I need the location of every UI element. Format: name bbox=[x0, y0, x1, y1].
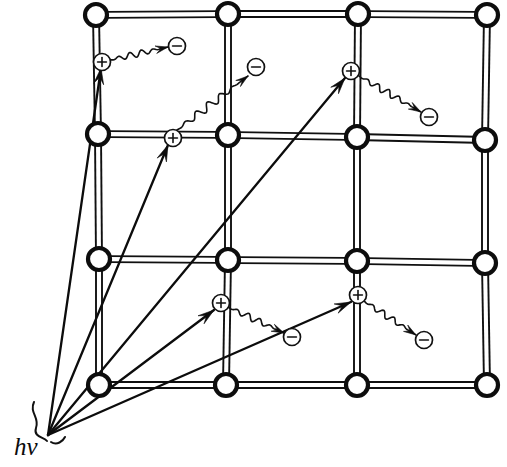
lattice-node bbox=[87, 123, 109, 145]
lattice-bond-line bbox=[108, 137, 218, 138]
lattice-node bbox=[85, 4, 107, 26]
lattice-bond-line bbox=[238, 257, 347, 258]
lattice-node bbox=[476, 374, 498, 396]
electron-charge-4 bbox=[284, 329, 301, 346]
figure-root: hν bbox=[0, 0, 507, 467]
lattice-node bbox=[217, 249, 239, 271]
lattice-bond-line bbox=[106, 11, 218, 12]
hole-charge-5 bbox=[350, 287, 367, 304]
electron-charge-5 bbox=[416, 332, 433, 349]
lattice-bond-line bbox=[368, 17, 477, 18]
lattice-node bbox=[215, 374, 237, 396]
hole-charge-2 bbox=[165, 130, 182, 147]
lattice-node bbox=[474, 252, 496, 274]
lattice-node bbox=[346, 374, 368, 396]
lattice-bond-line bbox=[95, 144, 96, 249]
electron-charge-3 bbox=[421, 109, 438, 126]
lattice-photon-diagram: hν bbox=[0, 0, 507, 467]
hole-charge-4 bbox=[213, 295, 230, 312]
hole-charge-3 bbox=[343, 63, 360, 80]
lattice-bond-line bbox=[109, 256, 218, 257]
lattice-node bbox=[88, 248, 110, 270]
lattice-node bbox=[346, 126, 368, 148]
electron-charge-2 bbox=[248, 59, 265, 76]
lattice-node bbox=[474, 129, 496, 151]
lattice-bond-line bbox=[360, 24, 361, 127]
photon-energy-label: hν bbox=[14, 433, 39, 460]
lattice-bond-line bbox=[368, 11, 477, 12]
lattice-bond-line bbox=[101, 144, 102, 249]
lattice-node bbox=[347, 3, 369, 25]
lattice-node bbox=[346, 250, 368, 272]
lattice-node bbox=[217, 3, 239, 25]
lattice-node bbox=[88, 374, 110, 396]
lattice-bond-line bbox=[238, 263, 347, 264]
lattice-node bbox=[476, 4, 498, 26]
hole-charge-1 bbox=[94, 54, 111, 71]
lattice-bond-line bbox=[109, 262, 218, 263]
electron-charge-1 bbox=[169, 38, 186, 55]
lattice-bond-line bbox=[106, 17, 218, 18]
lattice-bond-line bbox=[108, 131, 218, 132]
lattice-node bbox=[217, 124, 239, 146]
